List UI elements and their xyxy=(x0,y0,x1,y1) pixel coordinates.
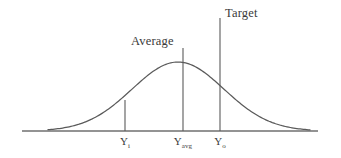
tick-y-i: Yi xyxy=(120,136,130,147)
tick-y-o-base: Y xyxy=(214,135,222,147)
tick-y-avg-base: Y xyxy=(174,135,182,147)
distribution-curve xyxy=(48,62,310,130)
tick-y-avg: Yavg xyxy=(174,136,192,147)
tick-y-o-subscript: o xyxy=(222,142,226,150)
tick-y-avg-subscript: avg xyxy=(182,142,192,150)
tick-y-i-base: Y xyxy=(120,135,128,147)
tick-y-i-subscript: i xyxy=(128,142,130,150)
average-label: Average xyxy=(131,35,174,48)
tick-y-o: Yo xyxy=(214,136,226,147)
distribution-figure: Average Target Yi Yavg Yo xyxy=(0,0,341,158)
figure-canvas xyxy=(0,0,341,158)
target-label: Target xyxy=(225,7,258,20)
